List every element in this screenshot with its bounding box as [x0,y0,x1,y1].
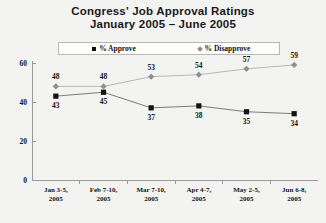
value-label-approve-0: 43 [52,101,60,110]
x-tick-label-0: 2005 [49,195,64,203]
value-label-disapprove-4: 57 [243,55,251,64]
data-point-disapprove-0 [53,83,59,89]
x-tick-label-2: Mar 7-10, [136,186,166,194]
line-disapprove [56,65,294,86]
value-label-disapprove-3: 54 [195,61,203,70]
value-label-disapprove-0: 48 [52,72,60,81]
series-points [53,62,298,116]
x-tick-label-3: 2005 [192,195,207,203]
data-value-labels: 434537383534484853545759 [52,51,298,128]
x-tick-label-0: Jan 3-5, [44,186,68,194]
data-point-disapprove-1 [100,83,106,89]
value-label-disapprove-2: 53 [147,63,155,72]
data-point-approve-5 [292,111,297,116]
value-label-disapprove-1: 48 [100,72,108,81]
data-point-disapprove-4 [243,66,249,72]
y-tick-60: 60 [20,59,28,68]
x-tick-label-5: 2005 [287,195,302,203]
chart-svg: 0204060 Jan 3-5,2005Feb 7-10,2005Mar 7-1… [0,0,326,223]
data-point-approve-1 [101,90,106,95]
data-point-approve-3 [196,103,201,108]
value-label-approve-4: 35 [243,117,251,126]
line-approve [56,92,294,113]
data-point-disapprove-3 [196,72,202,78]
y-axis-tick-labels: 0204060 [20,59,28,185]
plot-area: 0204060 Jan 3-5,2005Feb 7-10,2005Mar 7-1… [0,0,326,223]
value-label-approve-2: 37 [147,113,155,122]
y-tick-40: 40 [20,98,28,107]
chart-axes [32,61,318,184]
x-tick-label-1: Feb 7-10, [90,186,118,194]
x-tick-label-1: 2005 [97,195,112,203]
value-label-approve-5: 34 [290,119,298,128]
x-tick-label-5: Jun 6-8, [282,186,306,194]
x-tick-label-4: 2005 [240,195,255,203]
y-tick-0: 0 [23,176,27,185]
x-tick-label-4: May 2-5, [233,186,260,194]
data-point-disapprove-2 [148,74,154,80]
x-tick-label-3: Apr 4-7, [186,186,211,194]
data-point-approve-4 [244,109,249,114]
series-lines [56,65,294,114]
x-tick-label-2: 2005 [144,195,159,203]
x-axis-tick-labels: Jan 3-5,2005Feb 7-10,2005Mar 7-10,2005Ap… [44,186,307,203]
y-tick-20: 20 [20,137,28,146]
value-label-approve-3: 38 [195,111,203,120]
data-point-approve-2 [149,105,154,110]
chart-page: Congress' Job Approval Ratings January 2… [0,0,326,223]
data-point-disapprove-5 [291,62,297,68]
value-label-approve-1: 45 [100,97,108,106]
data-point-approve-0 [53,94,58,99]
value-label-disapprove-5: 59 [290,51,298,60]
